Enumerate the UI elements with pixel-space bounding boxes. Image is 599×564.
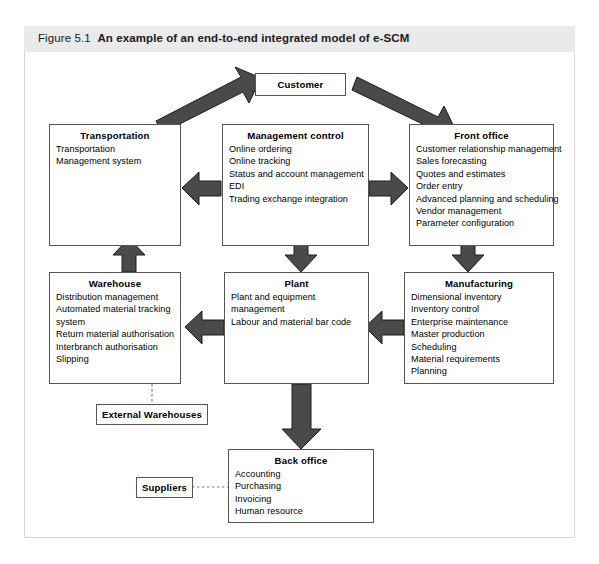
list-item: Order entry bbox=[416, 180, 553, 192]
figure-page: Figure 5.1 An example of an end-to-end i… bbox=[0, 0, 599, 564]
list-item: Distribution management bbox=[56, 291, 180, 303]
list-item: Sales forecasting bbox=[416, 155, 553, 167]
node-back-office[interactable]: Back office Accounting Purchasing Invoic… bbox=[228, 449, 374, 523]
diagram-canvas: Customer Transportation Transportation M… bbox=[0, 0, 599, 564]
list-item: Accounting bbox=[235, 468, 373, 480]
list-item: Transportation bbox=[56, 143, 180, 155]
arrow-manufacturing-to-plant bbox=[365, 311, 404, 344]
node-plant-items: Plant and equipment management Labour an… bbox=[225, 291, 368, 328]
list-item: Parameter configuration bbox=[416, 217, 553, 229]
list-item: Enterprise maintenance bbox=[411, 316, 553, 328]
node-external-warehouses-title: External Warehouses bbox=[102, 409, 202, 420]
list-item: Online ordering bbox=[229, 143, 368, 155]
node-warehouse-title: Warehouse bbox=[50, 278, 180, 289]
list-item: Trading exchange integration bbox=[229, 193, 368, 205]
node-management-control-items: Online ordering Online tracking Status a… bbox=[223, 143, 368, 205]
list-item: Plant and equipment bbox=[231, 291, 368, 303]
list-item: Vendor management bbox=[416, 205, 553, 217]
node-customer[interactable]: Customer bbox=[255, 73, 346, 96]
list-item: Customer relationship management bbox=[416, 143, 553, 155]
node-suppliers-title: Suppliers bbox=[142, 482, 187, 493]
list-item: Online tracking bbox=[229, 155, 368, 167]
list-item: Human resource bbox=[235, 505, 373, 517]
arrow-management-control-to-front-office bbox=[369, 172, 408, 205]
node-suppliers[interactable]: Suppliers bbox=[136, 477, 193, 498]
list-item: Status and account management bbox=[229, 168, 368, 180]
node-front-office-items: Customer relationship management Sales f… bbox=[410, 143, 553, 230]
list-item: Purchasing bbox=[235, 480, 373, 492]
arrow-management-control-to-transportation bbox=[182, 172, 221, 205]
arrow-plant-to-warehouse bbox=[185, 311, 224, 344]
list-item: Return material authorisation bbox=[56, 328, 180, 340]
list-item: Material requirements bbox=[411, 353, 553, 365]
node-transportation-items: Transportation Management system bbox=[50, 143, 180, 168]
list-item: Master production bbox=[411, 328, 553, 340]
node-transportation[interactable]: Transportation Transportation Management… bbox=[49, 124, 181, 246]
list-item: EDI bbox=[229, 180, 368, 192]
list-item: Quotes and estimates bbox=[416, 168, 553, 180]
node-customer-title: Customer bbox=[278, 79, 324, 90]
node-management-control-title: Management control bbox=[223, 130, 368, 141]
node-external-warehouses[interactable]: External Warehouses bbox=[96, 404, 208, 425]
node-front-office[interactable]: Front office Customer relationship manag… bbox=[409, 124, 554, 246]
node-back-office-title: Back office bbox=[229, 455, 373, 466]
node-warehouse[interactable]: Warehouse Distribution management Automa… bbox=[49, 272, 181, 384]
node-warehouse-items: Distribution management Automated materi… bbox=[50, 291, 180, 365]
node-manufacturing-items: Dimensional inventory Inventory control … bbox=[405, 291, 553, 378]
list-item: Dimensional inventory bbox=[411, 291, 553, 303]
list-item: management bbox=[231, 303, 368, 315]
list-item: Slipping bbox=[56, 353, 180, 365]
list-item: Management system bbox=[56, 155, 180, 167]
node-plant-title: Plant bbox=[225, 278, 368, 289]
list-item: Planning bbox=[411, 365, 553, 377]
node-plant[interactable]: Plant Plant and equipment management Lab… bbox=[224, 272, 369, 384]
list-item: Inventory control bbox=[411, 303, 553, 315]
list-item: Labour and material bar code bbox=[231, 316, 368, 328]
node-management-control[interactable]: Management control Online ordering Onlin… bbox=[222, 124, 369, 246]
list-item: Invoicing bbox=[235, 493, 373, 505]
list-item: Scheduling bbox=[411, 341, 553, 353]
node-front-office-title: Front office bbox=[410, 130, 553, 141]
node-manufacturing-title: Manufacturing bbox=[405, 278, 553, 289]
list-item: Interbranch authorisation bbox=[56, 341, 180, 353]
list-item: Automated material tracking bbox=[56, 303, 180, 315]
list-item: system bbox=[56, 316, 180, 328]
list-item: Advanced planning and scheduling bbox=[416, 193, 553, 205]
node-back-office-items: Accounting Purchasing Invoicing Human re… bbox=[229, 468, 373, 518]
node-manufacturing[interactable]: Manufacturing Dimensional inventory Inve… bbox=[404, 272, 554, 384]
node-transportation-title: Transportation bbox=[50, 130, 180, 141]
arrow-plant-to-back-office bbox=[282, 384, 321, 449]
